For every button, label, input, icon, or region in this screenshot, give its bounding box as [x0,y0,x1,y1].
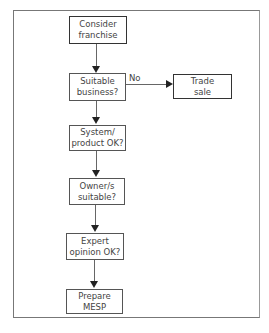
node-system-product: System/ product OK? [69,125,126,151]
node-label: MESP [83,302,106,313]
connector-line [96,101,97,118]
node-label: Prepare [78,291,111,302]
node-label: Consider [79,19,116,30]
node-prepare-mesp: Prepare MESP [66,289,123,314]
node-label: Trade [191,76,214,87]
node-label: System/ [80,127,115,138]
node-expert-opinion: Expert opinion OK? [66,233,124,260]
node-label: product OK? [71,138,123,149]
diagram-frame [13,10,260,318]
edge-label-no: No [129,73,141,83]
node-label: suitable? [78,192,116,203]
node-suitable-business: Suitable business? [69,73,126,101]
node-consider-franchise: Consider franchise [69,16,127,44]
connector-line [126,84,166,85]
arrow-down-icon [90,281,98,288]
arrow-down-icon [92,117,100,124]
node-label: franchise [78,30,117,41]
connector-line [94,260,95,282]
connector-line [96,44,97,66]
node-label: opinion OK? [70,247,121,258]
node-label: Owner/s [79,181,114,192]
node-label: Suitable [80,76,115,87]
node-owner-suitable: Owner/s suitable? [69,178,125,205]
node-label: business? [77,87,119,98]
node-trade-sale: Trade sale [173,74,232,99]
arrow-right-icon [166,80,173,88]
connector-line [96,151,97,171]
connector-line [95,205,96,226]
node-label: Expert [81,236,109,247]
arrow-down-icon [92,170,100,177]
arrow-down-icon [92,66,100,73]
arrow-down-icon [91,225,99,232]
node-label: sale [194,87,211,98]
